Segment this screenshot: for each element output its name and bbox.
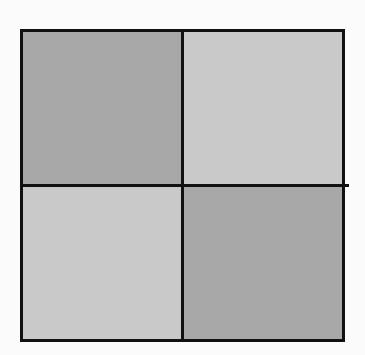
horizontal-divider xyxy=(20,184,349,187)
grid-cell-light xyxy=(23,184,181,339)
grid-cell-light xyxy=(181,32,342,184)
grid-cell-dark xyxy=(181,184,342,339)
grid-cell-dark xyxy=(23,32,181,184)
